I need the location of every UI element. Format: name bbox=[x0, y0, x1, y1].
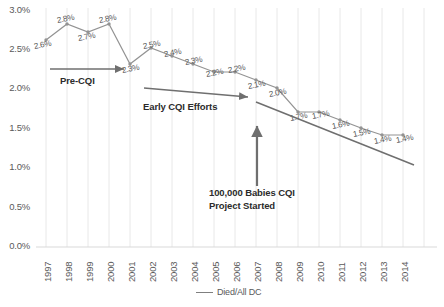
x-tick-label: 2002 bbox=[147, 262, 158, 282]
annotation-babies-project: 100,000 Babies CQI Project Started bbox=[209, 186, 295, 212]
chart-container: 3.0% 2.5% 2.0% 1.5% 1.0% 0.5% 0.0% bbox=[0, 0, 444, 307]
annotation-babies-project-line1: 100,000 Babies CQI bbox=[209, 186, 295, 199]
x-tick-label: 2010 bbox=[315, 262, 326, 282]
x-tick-label: 2011 bbox=[336, 262, 347, 282]
x-tick-label: 2008 bbox=[273, 262, 284, 282]
x-tick-label: 2012 bbox=[357, 262, 368, 282]
x-tick-label: 2000 bbox=[105, 262, 116, 282]
annotation-early-cqi-efforts: Early CQI Efforts bbox=[143, 101, 217, 112]
x-tick-label: 2007 bbox=[252, 262, 263, 282]
x-tick-label: 2005 bbox=[210, 262, 221, 282]
annotation-babies-project-line2: Project Started bbox=[209, 199, 295, 212]
x-tick-label: 1999 bbox=[84, 262, 95, 282]
x-tick-label: 2006 bbox=[231, 262, 242, 282]
x-tick-label: 2003 bbox=[168, 262, 179, 282]
annotation-pre-cqi: Pre-CQI bbox=[60, 75, 95, 86]
legend-label-died-all-dc: Died/All DC bbox=[217, 287, 261, 297]
x-tick-label: 1998 bbox=[63, 262, 74, 282]
x-tick-label: 1997 bbox=[42, 262, 53, 282]
x-tick-label: 2013 bbox=[378, 262, 389, 282]
x-tick-label: 2001 bbox=[126, 262, 137, 282]
early-cqi-efforts-arrow bbox=[144, 88, 248, 97]
chart-legend: Died/All DC bbox=[196, 287, 261, 297]
x-tick-label: 2004 bbox=[189, 262, 200, 282]
legend-swatch-died-all-dc bbox=[196, 292, 213, 293]
x-tick-label: 2014 bbox=[399, 262, 410, 282]
post-project-trend-arrow bbox=[256, 102, 414, 165]
x-tick-label: 2009 bbox=[294, 262, 305, 282]
